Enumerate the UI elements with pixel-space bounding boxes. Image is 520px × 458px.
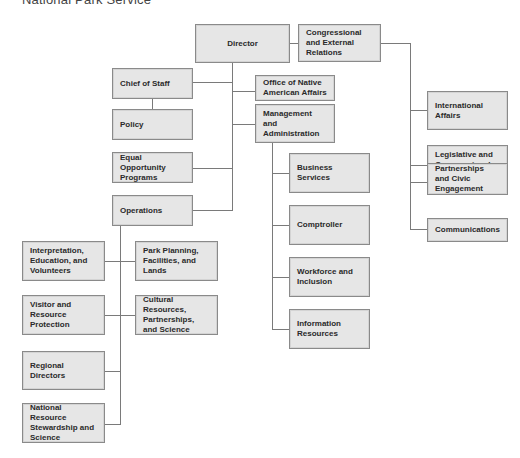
connector [232, 124, 255, 125]
connector [290, 43, 298, 44]
node-label: Policy [120, 120, 144, 130]
connector [410, 165, 427, 166]
connector [105, 371, 120, 372]
node-label: Partnerships and Civic Engagement [435, 164, 500, 194]
node-label: Congressional and External Relations [306, 28, 373, 58]
node-director[interactable]: Director [195, 24, 290, 63]
chart-title: National Park Service [22, 0, 151, 7]
node-label: Director [227, 39, 258, 49]
node-interpretation-education-volunteers[interactable]: Interpretation, Education, and Volunteer… [22, 241, 105, 281]
node-management-administration[interactable]: Management and Administration [255, 104, 335, 143]
node-regional-directors[interactable]: Regional Directors [22, 351, 105, 390]
node-cultural-resources-partnerships-science[interactable]: Cultural Resources, Partnerships, and Sc… [135, 295, 218, 335]
connector [410, 43, 411, 229]
connector [272, 173, 289, 174]
node-information-resources[interactable]: Information Resources [289, 309, 370, 349]
connector [410, 110, 427, 111]
node-international-affairs[interactable]: International Affairs [427, 91, 508, 130]
connector [152, 99, 153, 109]
node-label: Communications [435, 225, 500, 235]
connector [381, 43, 411, 44]
node-chief-of-staff[interactable]: Chief of Staff [112, 68, 193, 99]
node-label: Office of Native American Affairs [263, 78, 327, 98]
connector [272, 225, 289, 226]
node-policy[interactable]: Policy [112, 109, 193, 140]
connector [272, 329, 289, 330]
node-equal-opportunity[interactable]: Equal Opportunity Programs [112, 152, 193, 183]
node-workforce-inclusion[interactable]: Workforce and Inclusion [289, 257, 370, 297]
node-communications[interactable]: Communications [427, 218, 508, 242]
node-label: Equal Opportunity Programs [120, 153, 185, 183]
node-comptroller[interactable]: Comptroller [289, 205, 370, 245]
node-label: Management and Administration [263, 109, 327, 139]
node-label: Business Services [297, 163, 362, 183]
connector [410, 229, 427, 230]
node-label: Information Resources [297, 319, 362, 339]
node-partnerships-civic-engagement[interactable]: Partnerships and Civic Engagement [427, 163, 508, 195]
node-visitor-resource-protection[interactable]: Visitor and Resource Protection [22, 295, 105, 335]
node-label: Regional Directors [30, 361, 97, 381]
connector [193, 168, 232, 169]
connector [193, 82, 232, 83]
node-operations[interactable]: Operations [112, 195, 193, 226]
connector [232, 63, 233, 211]
connector [105, 261, 135, 262]
node-native-american-affairs[interactable]: Office of Native American Affairs [255, 75, 335, 101]
connector [272, 143, 273, 330]
node-park-planning-facilities-lands[interactable]: Park Planning, Facilities, and Lands [135, 241, 218, 281]
node-natural-resource-stewardship-science[interactable]: National Resource Stewardship and Scienc… [22, 403, 105, 443]
node-label: Cultural Resources, Partnerships, and Sc… [143, 295, 210, 335]
node-label: International Affairs [435, 101, 500, 121]
connector [410, 182, 427, 183]
node-label: National Resource Stewardship and Scienc… [30, 403, 97, 443]
node-label: Park Planning, Facilities, and Lands [143, 246, 210, 276]
node-congressional-external-relations[interactable]: Congressional and External Relations [298, 24, 381, 62]
node-label: Workforce and Inclusion [297, 267, 362, 287]
connector [193, 210, 233, 211]
node-label: Interpretation, Education, and Volunteer… [30, 246, 97, 276]
connector [105, 424, 120, 425]
connector [120, 226, 121, 425]
node-label: Visitor and Resource Protection [30, 300, 97, 330]
node-business-services[interactable]: Business Services [289, 153, 370, 193]
node-label: Chief of Staff [120, 79, 170, 89]
node-label: Operations [120, 206, 162, 216]
connector [272, 277, 289, 278]
connector [105, 315, 135, 316]
connector [232, 91, 255, 92]
node-label: Comptroller [297, 220, 342, 230]
